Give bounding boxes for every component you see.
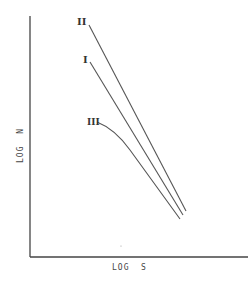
log-n-log-s-plot [0,0,251,287]
curve-I [90,62,183,215]
x-axis-label: LOG S [112,263,147,272]
label-series-I: I [83,54,88,65]
y-axis-label: LOG N [16,128,25,164]
curve-II [89,25,186,211]
label-series-II: II [77,16,86,27]
label-series-III: III [87,117,100,127]
stray-dot [120,245,121,246]
curve-III [97,122,180,219]
